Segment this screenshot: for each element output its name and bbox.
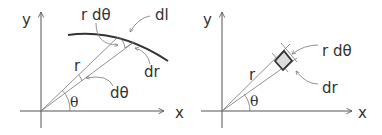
r-label: r [249, 66, 256, 84]
dr-segment [125, 42, 134, 48]
theta-label: θ [70, 94, 78, 110]
area-element-diagram: y x r dθ dr r θ [201, 11, 367, 128]
dtheta-arc [79, 75, 82, 81]
x-axis-label: x [358, 104, 367, 122]
r-dtheta-label: r dθ [81, 6, 111, 24]
dl-leader [130, 16, 150, 32]
path-curve [68, 34, 168, 61]
area-element-box [275, 51, 292, 70]
r-label: r [74, 57, 81, 75]
dl-label: dl [155, 6, 169, 24]
y-axis-label: y [203, 11, 212, 29]
arc-length-diagram: y x r dθ dl dr dθ r θ [20, 6, 184, 128]
dr-leader [296, 71, 318, 84]
theta-label: θ [250, 93, 258, 109]
r-dtheta-label: r dθ [322, 42, 352, 60]
theta-arc [62, 90, 70, 111]
r-dtheta-leader [292, 45, 318, 54]
x-axis-label: x [175, 104, 184, 122]
polar-coordinates-figure: y x r dθ dl dr dθ r θ y x [0, 0, 382, 135]
dtheta-leader [86, 77, 113, 86]
dr-label: dr [322, 79, 339, 97]
y-axis-label: y [22, 11, 31, 29]
dr-leader [135, 48, 150, 64]
dtheta-label: dθ [110, 84, 129, 102]
dr-label: dr [144, 63, 161, 81]
